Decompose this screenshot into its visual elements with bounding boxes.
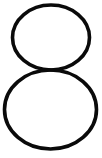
drawing-canvas: Figure-eight outline drawing Upper ellip… [0, 0, 102, 158]
figure-eight-graphic [0, 0, 102, 158]
